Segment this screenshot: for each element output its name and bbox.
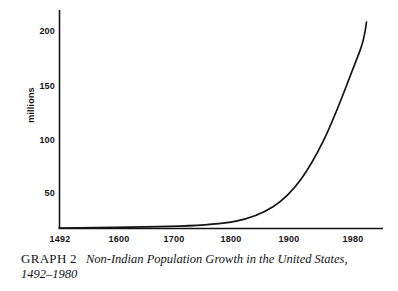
y-axis-title: millions (26, 75, 36, 135)
y-tick-label-100: 100 (21, 135, 55, 145)
figure-caption: GRAPH 2Non-Indian Population Growth in t… (21, 252, 381, 281)
plot-area: 200 150 100 50 millions 1492 1600 1700 1… (0, 0, 398, 240)
y-tick-label-200: 200 (21, 26, 55, 36)
x-tick-label-1492: 1492 (35, 234, 85, 245)
caption-figure-number: GRAPH 2 (21, 251, 77, 266)
x-axis-tick-labels: 1492 1600 1700 1800 1900 1980 (0, 234, 398, 248)
population-curve (59, 22, 367, 228)
x-tick-label-1900: 1900 (264, 234, 314, 245)
figure-graph-2: 200 150 100 50 millions 1492 1600 1700 1… (0, 0, 398, 291)
x-tick-label-1980: 1980 (328, 234, 378, 245)
y-axis-tick-labels: 200 150 100 50 millions (20, 0, 55, 240)
caption-year-range: 1492–1980 (21, 267, 381, 282)
x-tick-label-1600: 1600 (94, 234, 144, 245)
x-tick-label-1700: 1700 (149, 234, 199, 245)
caption-title-text: Non-Indian Population Growth in the Unit… (86, 252, 348, 266)
y-tick-label-50: 50 (21, 188, 55, 198)
population-growth-curve-svg (0, 0, 398, 240)
x-tick-label-1800: 1800 (206, 234, 256, 245)
